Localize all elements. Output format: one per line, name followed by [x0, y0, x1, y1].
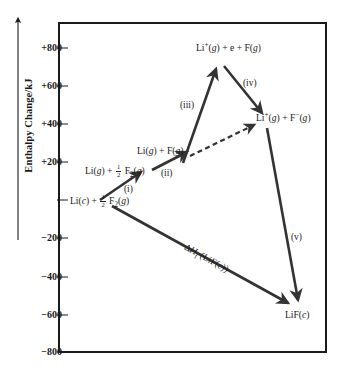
step-label-iv: (iv) [243, 78, 257, 88]
step-label-iii: (iii) [180, 100, 194, 110]
species-label-li-c-f2: Li(c) + 12 F2(g) [70, 194, 129, 210]
arrow-step-iii [183, 69, 216, 163]
energy-level-diagram: Enthalpy Change/kJ +800 +600 +400 +200 −… [0, 0, 340, 368]
species-label-lif-c: LiF(c) [285, 310, 310, 320]
step-label-v: (v) [291, 232, 302, 242]
arrow-step-v [267, 128, 298, 300]
species-label-li-g-f-g: Li(g) + F(g) [137, 146, 183, 156]
arrow-step-dashed [190, 125, 254, 156]
species-label-li-g-f2: Li(g) + 12 F2(g) [85, 164, 145, 180]
species-label-li-plus-e-f: Li+(g) + e + F(g) [196, 42, 261, 53]
step-label-ii: (ii) [161, 168, 172, 178]
arrow-step-iv [224, 66, 262, 113]
species-label-li-plus-f-minus: Li+(g) + F−(g) [256, 112, 311, 123]
step-label-i: (i) [124, 184, 133, 194]
